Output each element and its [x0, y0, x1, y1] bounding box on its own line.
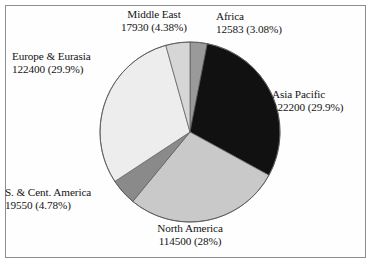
slice-label-s-and-cent-america: S. & Cent. America 19550 (4.78%): [5, 186, 91, 212]
slice-label-north-america: North America 114500 (28%): [132, 222, 248, 248]
slice-label-africa: Africa 12583 (3.08%): [216, 10, 282, 36]
slice-label-s-and-cent-america-name: S. & Cent. America: [5, 186, 91, 199]
slice-label-asia-pacific-value: 122200 (29.9%): [272, 101, 343, 114]
slice-label-asia-pacific: Asia Pacific 122200 (29.9%): [272, 88, 343, 114]
slice-label-middle-east: Middle East 17930 (4.38%): [95, 8, 213, 34]
slice-label-africa-value: 12583 (3.08%): [216, 23, 282, 36]
pie-chart-figure: Africa 12583 (3.08%) Asia Pacific 122200…: [0, 0, 373, 265]
slice-label-middle-east-value: 17930 (4.38%): [95, 21, 213, 34]
pie-slices-group: [100, 42, 280, 222]
slice-label-europe-eurasia-name: Europe & Eurasia: [12, 50, 91, 63]
slice-label-europe-eurasia-value: 122400 (29.9%): [12, 63, 91, 76]
pie-area: Africa 12583 (3.08%) Asia Pacific 122200…: [0, 0, 373, 265]
slice-label-europe-eurasia: Europe & Eurasia 122400 (29.9%): [12, 50, 91, 76]
slice-label-s-and-cent-america-value: 19550 (4.78%): [5, 199, 91, 212]
slice-label-north-america-name: North America: [132, 222, 248, 235]
slice-label-asia-pacific-name: Asia Pacific: [272, 88, 343, 101]
slice-label-middle-east-name: Middle East: [95, 8, 213, 21]
slice-label-north-america-value: 114500 (28%): [132, 235, 248, 248]
slice-label-africa-name: Africa: [216, 10, 282, 23]
